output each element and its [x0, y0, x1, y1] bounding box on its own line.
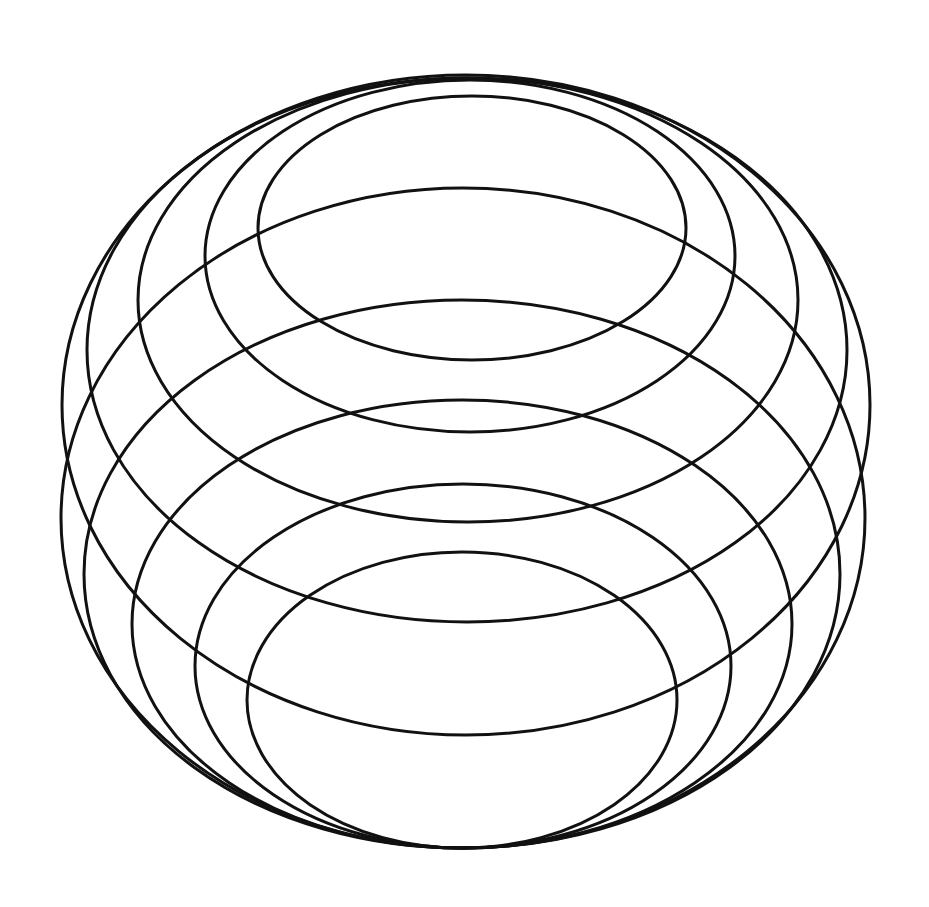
bottom-ellipse-3	[132, 400, 792, 848]
ellipse-sphere-drawing	[0, 0, 929, 907]
top-ellipse-2	[205, 80, 735, 432]
bottom-ellipse-2	[195, 484, 731, 848]
figure-canvas	[0, 0, 929, 907]
bottom-ellipse-1	[247, 552, 677, 848]
top-ellipse-4	[87, 78, 847, 622]
bottom-ellipse-5	[61, 188, 865, 848]
top-ellipse-5	[62, 75, 870, 735]
